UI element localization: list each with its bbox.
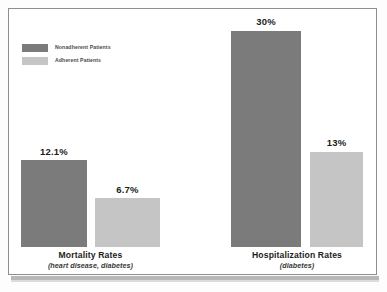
bar-rect-mortality-adherent [95, 198, 160, 247]
bar-value-label-mortality-adherent: 6.7% [116, 184, 138, 195]
bar-rect-hospitalization-nonadherent [231, 31, 301, 247]
bar-hospitalization-adherent: 13% [310, 152, 363, 247]
group-caption-mortality: Mortality Rates (heart disease, diabetes… [21, 250, 160, 271]
group-caption-hospitalization: Hospitalization Rates (diabetes) [231, 250, 363, 271]
group-title-hospitalization: Hospitalization Rates [231, 250, 363, 261]
bar-value-label-hospitalization-nonadherent: 30% [256, 16, 276, 27]
group-subtitle-mortality: (heart disease, diabetes) [21, 261, 160, 271]
bar-rect-hospitalization-adherent [310, 152, 363, 247]
bar-chart-figure: Nonadherent Patients Adherent Patients 1… [0, 0, 387, 292]
bar-mortality-adherent: 6.7% [95, 198, 160, 247]
bar-hospitalization-nonadherent: 30% [231, 31, 301, 247]
group-subtitle-hospitalization: (diabetes) [231, 261, 363, 271]
bars-plot-area: 12.1% 6.7% 30% 13% [0, 0, 387, 247]
bar-value-label-mortality-nonadherent: 12.1% [40, 146, 68, 157]
frame-shadow-band-soft [11, 280, 379, 282]
bar-mortality-nonadherent: 12.1% [21, 160, 87, 247]
bar-value-label-hospitalization-adherent: 13% [327, 137, 347, 148]
bar-rect-mortality-nonadherent [21, 160, 87, 247]
group-title-mortality: Mortality Rates [21, 250, 160, 261]
